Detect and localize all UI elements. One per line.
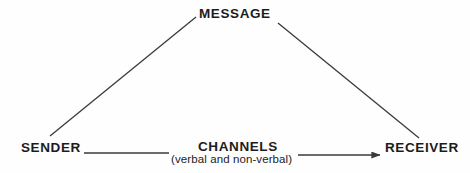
communication-model-diagram: MESSAGE SENDER RECEIVER CHANNELS (verbal…	[0, 0, 470, 173]
node-label-sender: SENDER	[21, 141, 81, 155]
node-label-channels: CHANNELS	[198, 140, 278, 154]
node-sublabel-channels: (verbal and non-verbal)	[171, 154, 292, 166]
node-label-message: MESSAGE	[199, 7, 271, 21]
line-message-to-receiver	[278, 23, 419, 138]
line-sender-to-message	[50, 17, 196, 136]
node-label-receiver: RECEIVER	[385, 141, 459, 155]
